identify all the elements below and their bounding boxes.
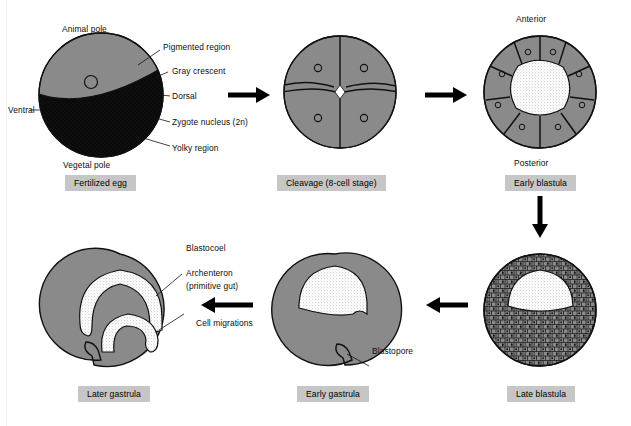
stage-early-gastrula [273, 248, 397, 378]
page-edge-line [6, 0, 7, 426]
label-anterior: Anterior [516, 14, 546, 24]
stage-early-blastula [478, 30, 602, 154]
label-yolky-region: Yolky region [172, 143, 219, 153]
label-archenteron: Archenteron [186, 268, 233, 278]
arrow-to-cleavage [228, 86, 270, 104]
label-zygote-nucleus: Zygote nucleus (2n) [172, 117, 248, 127]
caption-early-gastrula: Early gastrula [297, 386, 369, 402]
stage-cleavage [278, 30, 402, 154]
label-blastopore: Blastopore [372, 346, 413, 356]
label-dorsal: Dorsal [172, 91, 197, 101]
label-primitive-gut: (primitive gut) [186, 281, 238, 291]
caption-later-gastrula: Later gastrula [78, 386, 150, 402]
label-gray-crescent: Gray crescent [172, 66, 225, 76]
figure-canvas: Animal pole Pigmented region Gray cresce… [0, 0, 631, 426]
caption-early-blastula: Early blastula [505, 175, 576, 191]
arrow-to-late-blastula [531, 196, 549, 238]
arrow-to-early-gastrula [422, 296, 468, 314]
stage-late-blastula [478, 248, 602, 372]
label-animal-pole: Animal pole [62, 24, 107, 34]
early-blastula-cavity [510, 60, 569, 115]
caption-cleavage: Cleavage (8-cell stage) [277, 175, 386, 191]
label-pigmented-region: Pigmented region [163, 42, 230, 52]
arrow-to-early-blastula [425, 86, 467, 104]
label-blastocoel: Blastocoel [186, 243, 226, 253]
label-vegetal-pole: Vegetal pole [63, 160, 110, 170]
label-cell-migrations: Cell migrations [196, 318, 253, 328]
arrow-cell-migrations [197, 296, 253, 314]
caption-fertilized-egg: Fertilized egg [65, 175, 136, 191]
stage-later-gastrula [58, 248, 188, 378]
label-ventral: Ventral [8, 105, 35, 115]
caption-late-blastula: Late blastula [507, 386, 575, 402]
label-posterior: Posterior [514, 158, 548, 168]
